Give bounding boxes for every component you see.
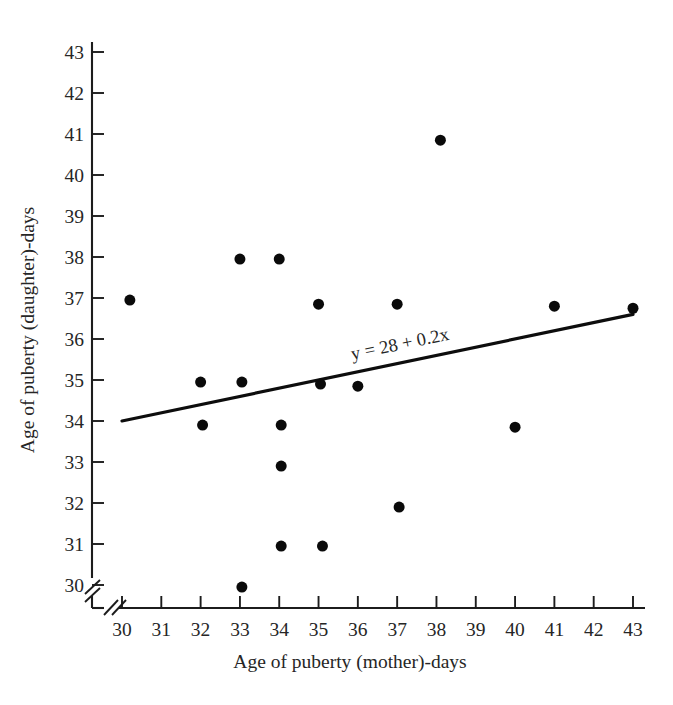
y-tick-label-34: 34	[65, 411, 85, 432]
x-axis-break-mark-1	[104, 600, 118, 615]
data-point	[234, 254, 245, 265]
data-point	[276, 461, 287, 472]
data-point	[510, 422, 521, 433]
y-axis-title: Age of puberty (daughter)-days	[17, 207, 39, 453]
y-tick-label-38: 38	[65, 247, 85, 268]
x-tick-label-40: 40	[505, 619, 525, 640]
x-tick-label-32: 32	[191, 619, 211, 640]
data-point	[435, 135, 446, 146]
x-tick-label-42: 42	[584, 619, 604, 640]
data-point	[276, 420, 287, 431]
data-point	[317, 541, 328, 552]
y-tick-marks	[92, 52, 104, 585]
y-tick-label-41: 41	[65, 124, 85, 145]
x-tick-label-37: 37	[387, 619, 407, 640]
regression-line	[122, 314, 633, 421]
x-tick-label-39: 39	[466, 619, 486, 640]
x-tick-label-38: 38	[427, 619, 447, 640]
y-tick-label-30: 30	[65, 575, 85, 596]
y-tick-label-43: 43	[65, 42, 85, 63]
data-point	[549, 301, 560, 312]
data-point	[274, 254, 285, 265]
data-point	[236, 582, 247, 593]
data-point	[628, 303, 639, 314]
y-tick-label-42: 42	[65, 83, 85, 104]
x-tick-label-30: 30	[112, 619, 132, 640]
data-point	[315, 379, 326, 390]
y-tick-label-40: 40	[65, 165, 85, 186]
regression-line-segment	[122, 314, 633, 421]
y-tick-label-36: 36	[65, 329, 85, 350]
y-tick-label-32: 32	[65, 493, 85, 514]
regression-equation-label: y = 28 + 0.2x	[349, 324, 451, 364]
x-tick-label-33: 33	[230, 619, 250, 640]
data-point	[352, 381, 363, 392]
x-tick-labels: 3031323334353637383940414243	[112, 619, 643, 640]
x-tick-label-31: 31	[152, 619, 172, 640]
data-point	[236, 377, 247, 388]
scatter-plot-figure: 3031323334353637383940414243 30313233343…	[0, 0, 673, 705]
y-axis-break-mark-1	[85, 580, 100, 594]
y-axis: 3031323334353637383940414243	[65, 42, 105, 608]
x-tick-marks	[122, 596, 633, 608]
x-tick-label-43: 43	[623, 619, 643, 640]
data-point	[394, 502, 405, 513]
y-tick-label-37: 37	[65, 288, 85, 309]
x-tick-label-36: 36	[348, 619, 368, 640]
y-tick-label-39: 39	[65, 206, 85, 227]
plot-canvas: 3031323334353637383940414243 30313233343…	[0, 0, 673, 705]
x-tick-label-34: 34	[269, 619, 289, 640]
data-point	[392, 299, 403, 310]
x-axis: 3031323334353637383940414243	[92, 596, 645, 640]
data-point	[124, 295, 135, 306]
x-tick-label-35: 35	[309, 619, 329, 640]
y-tick-label-35: 35	[65, 370, 85, 391]
y-tick-label-33: 33	[65, 452, 85, 473]
y-tick-label-31: 31	[65, 534, 85, 555]
data-point	[313, 299, 324, 310]
y-tick-labels: 3031323334353637383940414243	[65, 42, 85, 596]
x-axis-title: Age of puberty (mother)-days	[233, 651, 466, 673]
x-tick-label-41: 41	[545, 619, 565, 640]
data-point	[197, 420, 208, 431]
data-point	[195, 377, 206, 388]
data-point	[276, 541, 287, 552]
data-points	[124, 135, 638, 593]
